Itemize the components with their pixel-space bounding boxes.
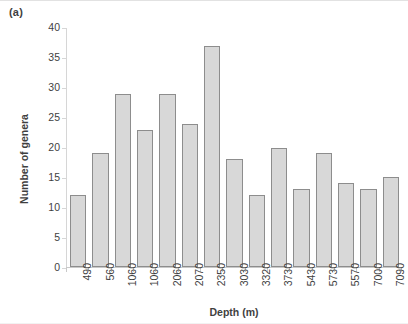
x-tick-label: 3320 xyxy=(260,263,272,303)
plot-area: 0510152025303540 xyxy=(66,28,402,268)
bar xyxy=(271,148,288,268)
bar xyxy=(137,130,154,267)
y-tick-label: 35 xyxy=(48,51,60,63)
bar xyxy=(249,195,266,267)
x-tick-label: 560 xyxy=(104,263,116,303)
bar xyxy=(338,183,355,267)
y-tick-mark xyxy=(62,238,66,239)
x-tick-label: 7090 xyxy=(394,263,406,303)
bar xyxy=(204,46,221,267)
bar xyxy=(115,94,132,267)
y-tick-label: 40 xyxy=(48,21,60,33)
y-tick-mark xyxy=(62,28,66,29)
y-axis-title-text: Number of genera xyxy=(18,89,30,229)
y-tick-label: 5 xyxy=(54,231,60,243)
x-axis-tick-labels: 4905601060106020602070235030303320373054… xyxy=(66,271,402,305)
y-tick-label: 15 xyxy=(48,171,60,183)
x-tick-label: 7000 xyxy=(372,263,384,303)
bar xyxy=(293,189,310,267)
x-tick-label: 2350 xyxy=(215,263,227,303)
x-tick-label: 1060 xyxy=(148,263,160,303)
x-tick-label: 2060 xyxy=(171,263,183,303)
y-tick-label: 10 xyxy=(48,201,60,213)
x-tick-label: 490 xyxy=(81,263,93,303)
y-tick-mark xyxy=(62,118,66,119)
y-tick-mark xyxy=(62,58,66,59)
y-tick-label: 30 xyxy=(48,81,60,93)
bar xyxy=(70,195,87,267)
bar xyxy=(226,159,243,267)
y-tick-mark xyxy=(62,148,66,149)
y-tick-mark xyxy=(62,88,66,89)
y-tick-mark xyxy=(62,178,66,179)
bar xyxy=(182,124,199,267)
x-axis-title: Depth (m) xyxy=(66,306,402,318)
bar xyxy=(316,153,333,267)
y-axis-title: Number of genera xyxy=(18,0,32,89)
bar xyxy=(92,153,109,267)
bar xyxy=(360,189,377,267)
bar-series xyxy=(67,28,402,267)
y-tick-label: 0 xyxy=(54,261,60,273)
x-tick-label: 5570 xyxy=(349,263,361,303)
x-tick-label: 5430 xyxy=(305,263,317,303)
x-tick-label: 3730 xyxy=(282,263,294,303)
figure-panel-a: (a) Number of genera 0510152025303540 49… xyxy=(0,0,408,324)
x-tick-label: 3030 xyxy=(238,263,250,303)
x-tick-label: 1060 xyxy=(126,263,138,303)
y-tick-label: 25 xyxy=(48,111,60,123)
x-tick-label: 2070 xyxy=(193,263,205,303)
y-tick-label: 20 xyxy=(48,141,60,153)
y-tick-mark xyxy=(62,208,66,209)
bar xyxy=(159,94,176,267)
x-tick-label: 5730 xyxy=(327,263,339,303)
bar xyxy=(383,177,400,267)
